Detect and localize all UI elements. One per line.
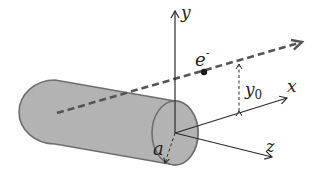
offset-y-symbol: y [244,79,255,99]
x-axis-label: x [287,76,297,96]
offset-y0-label: y0 [244,79,262,102]
z-axis-label: z [265,137,275,156]
offset-subscript: 0 [255,88,263,102]
electron-charge-superscript: - [206,47,210,60]
radius-a-label: a [153,138,164,159]
cylinder [19,80,198,165]
y-axis-label: y [180,2,191,22]
cylinder-electron-diagram: y x z e- y0 a [0,0,314,175]
electron-symbol: e [195,49,206,70]
electron-label: e- [195,47,210,70]
